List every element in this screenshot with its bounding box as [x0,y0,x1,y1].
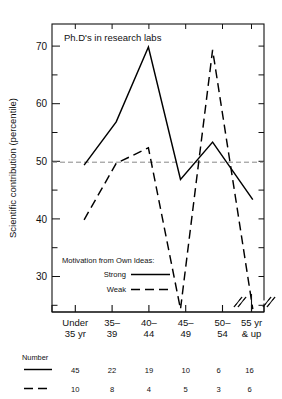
sample-count: 6 [247,385,251,394]
sample-count: 8 [110,385,114,394]
sample-count: 3 [216,385,220,394]
sample-count: 22 [108,366,116,375]
x-tick-label: 55 yr [241,317,262,328]
y-tick-labels: 70 60 50 40 30 [36,41,48,282]
x-tick-label: 35– [104,317,121,328]
y-tick-label: 40 [36,214,48,225]
y-axis-label: Scientific contribution (percentile) [7,98,18,238]
legend-label-weak: Weak [107,285,126,294]
x-tick-label: 54 [217,328,228,339]
x-tick-label: 50– [215,317,232,328]
x-tick-label: 39 [107,328,118,339]
legend-label-strong: Strong [104,270,126,279]
chart-figure: 70 60 50 40 30 Scientific contribution (… [0,0,282,399]
sample-count: 45 [71,366,79,375]
sample-count: 10 [71,385,79,394]
x-tick-label: Under [62,317,88,328]
sample-size-table: Number 45 22 19 10 6 16 10 8 4 5 3 6 [22,353,254,394]
sample-count: 19 [145,366,153,375]
plot-frame [52,24,264,312]
legend-title: Motivation from Own Ideas: [62,256,154,265]
x-tick-label: 44 [144,328,155,339]
chart-title: Ph.D's in research labs [64,32,162,43]
y-tick-label: 70 [36,41,48,52]
y-tick-label: 60 [36,98,48,109]
sample-count: 5 [184,385,188,394]
x-tick-label: 40– [141,317,158,328]
y-tick-label: 30 [36,271,48,282]
sample-count: 10 [181,366,189,375]
x-tick-label: 49 [180,328,191,339]
x-tick-labels: Under 35 yr 35– 39 40– 44 45– 49 50– 54 … [62,317,262,339]
sample-count: 16 [245,366,253,375]
x-tick-label: 35 yr [65,328,86,339]
x-tick-label: & up [242,328,262,339]
x-tick-label: 45– [178,317,195,328]
sample-count: 6 [216,366,220,375]
y-axis-title: Scientific contribution (percentile) [7,98,18,238]
y-tick-label: 50 [36,156,48,167]
sample-count: 4 [147,385,151,394]
sample-table-row-label: Number [22,353,49,362]
